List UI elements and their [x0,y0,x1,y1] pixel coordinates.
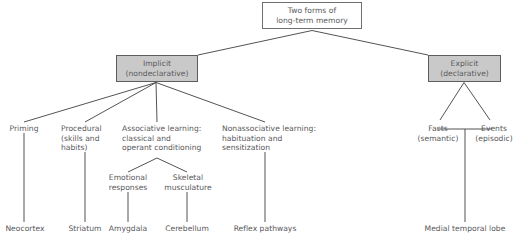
edge-explicit-to-facts [440,83,464,121]
node-procedural: Procedural (skills and habits) [61,124,117,153]
node-neocortex: Neocortex [0,224,50,234]
edge-implicit-to-nonassociative [156,83,265,123]
node-priming: Priming [0,124,48,134]
node-implicit: Implicit (nondeclarative) [116,55,198,82]
edge-associative-to-skeletal [157,158,187,172]
node-associative-learning: Associative learning: classical and oper… [122,124,226,153]
node-medial-temporal-lobe: Medial temporal lobe [414,224,516,234]
edge-implicit-to-associative [156,83,157,123]
node-explicit: Explicit (declarative) [428,55,501,82]
edge-implicit-to-procedural [85,83,156,123]
node-root: Two forms of long-term memory [262,2,362,29]
node-nonassociative-learning: Nonassociative learning: habituation and… [222,124,334,153]
edge-explicit-to-events [464,83,490,121]
edge-associative-to-emotional [128,158,157,172]
node-facts-semantic: Facts (semantic) [412,124,464,143]
node-amygdala: Amygdala [101,224,155,234]
node-cerebellum: Cerebellum [158,224,216,234]
node-emotional-responses: Emotional responses [100,173,156,192]
memory-taxonomy-diagram: Two forms of long-term memory Implicit (… [0,0,528,238]
edge-root-to-implicit [198,31,312,56]
node-reflex-pathways: Reflex pathways [228,224,302,234]
edge-root-to-explicit [312,31,428,56]
connector-lines-layer [0,0,528,238]
edge-implicit-to-priming [24,83,156,123]
node-skeletal-musculature: Skeletal musculature [158,173,218,192]
node-events-episodic: Events (episodic) [468,124,520,143]
